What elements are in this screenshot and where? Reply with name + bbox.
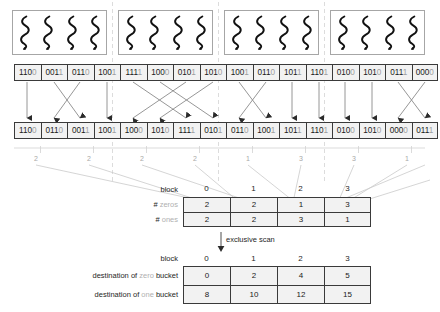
squiggle-icon	[66, 14, 77, 52]
input-cell: 1001	[226, 64, 253, 81]
num-zeros-cell: 2	[230, 197, 277, 212]
input-binary-row: 1100 0011 0110 1001 1111 1000 0101 1010 …	[14, 64, 438, 81]
block-id-header: 1	[230, 252, 277, 266]
dest-zero-cell: 2	[230, 266, 277, 285]
sorted-cell: 1000	[120, 122, 147, 139]
sorted-cell-lsb: 0	[138, 126, 143, 135]
diagram-canvas: 1100 0011 0110 1001 1111 1000 0101 1010 …	[0, 0, 440, 312]
sorted-cell: 1001	[253, 122, 280, 139]
count-label: 1	[240, 155, 256, 162]
input-cell-lsb: 0	[85, 68, 90, 77]
squiggle-icon	[278, 14, 289, 52]
thread-block-0	[12, 10, 107, 55]
input-cell: 1010	[359, 64, 386, 81]
squiggle-icon	[384, 14, 395, 52]
block-id-header: 3	[324, 182, 371, 197]
thread-block-3	[330, 10, 425, 55]
input-cell-bits: 101	[204, 68, 218, 77]
sorted-cell-bits: 010	[337, 126, 351, 135]
squiggle-icon	[42, 14, 53, 52]
input-cell: 0110	[67, 64, 94, 81]
squiggle-icon	[254, 14, 265, 52]
input-cell-lsb: 1	[324, 68, 329, 77]
block-count-header-row: block 0 1 2 3	[98, 182, 371, 197]
num-zeros-row: # zeros 2 2 1 3	[98, 197, 371, 212]
sorted-cell-bits: 110	[310, 126, 323, 135]
input-cell: 0101	[173, 64, 200, 81]
sorted-cell-bits: 101	[151, 126, 165, 135]
sorted-cell-lsb: 0	[377, 126, 382, 135]
block-header-label: block	[98, 182, 183, 197]
sorted-cell-bits: 100	[125, 126, 139, 135]
input-cell-bits: 100	[151, 68, 165, 77]
dest-one-bucket-label: destination of one bucket	[48, 285, 183, 304]
squiggle-icon	[19, 14, 30, 52]
dest-one-cell: 10	[230, 285, 277, 304]
sorted-cell-lsb: 1	[85, 126, 90, 135]
input-cell-bits: 110	[19, 68, 32, 77]
sorted-cell-bits: 000	[390, 126, 404, 135]
dest-one-cell: 8	[183, 285, 230, 304]
sorted-cell: 0000	[385, 122, 412, 139]
label-suffix: bucket	[154, 271, 178, 280]
input-cell-bits: 011	[390, 68, 402, 77]
num-zeros-cell: 2	[183, 197, 230, 212]
input-cell-lsb: 0	[429, 68, 434, 77]
input-cell-bits: 111	[126, 68, 138, 77]
sorted-cell: 0011	[67, 122, 94, 139]
sorted-cell: 1010	[147, 122, 174, 139]
sorted-cell-lsb: 1	[297, 126, 302, 135]
sorted-cell-lsb: 1	[190, 126, 195, 135]
sorted-cell: 1010	[359, 122, 386, 139]
input-cell-lsb: 0	[377, 68, 382, 77]
label-dim: one	[141, 290, 154, 299]
sorted-cell-bits: 101	[284, 126, 297, 135]
count-label: 2	[134, 155, 150, 162]
sorted-cell: 1101	[306, 122, 333, 139]
sorted-cell: 1111	[173, 122, 200, 139]
num-ones-cell: 1	[324, 212, 371, 227]
dest-zero-cell: 5	[324, 266, 371, 285]
input-cell: 1111	[120, 64, 147, 81]
input-cell-bits: 010	[178, 68, 192, 77]
sorted-cell: 0110	[41, 122, 68, 139]
input-cell-bits: 110	[310, 68, 323, 77]
destination-block-header-label: block	[48, 252, 183, 266]
sorted-cell-bits: 010	[204, 126, 218, 135]
sorted-cell: 1001	[94, 122, 121, 139]
num-zeros-cell: 1	[277, 197, 324, 212]
input-cell: 1001	[94, 64, 121, 81]
input-cell-lsb: 0	[271, 68, 276, 77]
squiggle-icon	[148, 14, 159, 52]
destination-header-row: block 0 1 2 3	[48, 252, 371, 266]
input-cell: 1101	[306, 64, 333, 81]
input-cell: 0000	[412, 64, 439, 81]
input-cell-lsb: 1	[59, 68, 64, 77]
num-ones-label: # ones	[98, 212, 183, 227]
label-prefix: destination of	[93, 271, 140, 280]
input-cell-bits: 100	[231, 68, 245, 77]
input-cell: 1011	[279, 64, 306, 81]
block-id-header: 3	[324, 252, 371, 266]
sorted-cell: 0110	[226, 122, 253, 139]
dest-zero-bucket-label: destination of zero bucket	[48, 266, 183, 285]
label-suffix: bucket	[154, 290, 178, 299]
input-cell-lsb: 1	[191, 68, 196, 77]
num-zeros-label: # zeros	[98, 197, 183, 212]
squiggle-icon	[337, 14, 348, 52]
input-cell-bits: 101	[363, 68, 377, 77]
dest-zero-bucket-row: destination of zero bucket 0 2 4 5	[48, 266, 371, 285]
count-label: 2	[81, 155, 97, 162]
num-ones-cell: 3	[277, 212, 324, 227]
input-cell-bits: 010	[337, 68, 351, 77]
sorted-cell: 0111	[412, 122, 439, 139]
input-cell: 1010	[200, 64, 227, 81]
input-cell: 0111	[385, 64, 412, 81]
thread-block-2	[224, 10, 319, 55]
label-dim: zero	[139, 271, 154, 280]
input-cell-lsb: 1	[244, 68, 249, 77]
sorted-cell-lsb: 0	[32, 126, 37, 135]
sorted-cell-bits: 100	[98, 126, 112, 135]
sorted-cell-lsb: 0	[350, 126, 355, 135]
sorted-cell-bits: 111	[179, 126, 191, 135]
